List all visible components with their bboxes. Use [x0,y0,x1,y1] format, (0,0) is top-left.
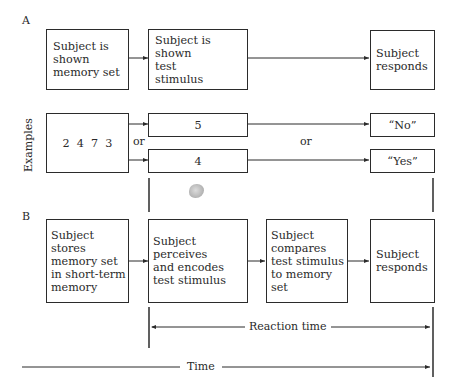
response-value: “Yes” [387,155,418,168]
box-memory-set-example: 2 4 7 3 [46,113,129,173]
box-text: Subject perceives and encodes test stimu… [149,235,247,287]
panel-b-label: B [22,210,30,223]
box-compares-stimulus: Subject compares test stimulus to memory… [266,219,348,303]
response-value: “No” [389,119,417,132]
box-shown-test-stimulus: Subject is shown test stimulus [148,29,248,90]
stimulus-value: 5 [194,119,201,132]
or-label-left: or [133,135,145,148]
box-stimulus-4: 4 [148,149,248,173]
box-subject-responds-b: Subject responds [370,219,435,303]
box-text: Subject responds [371,47,428,73]
box-text: Subject is shown memory set [47,40,120,79]
box-shown-memory-set: Subject is shown memory set [46,29,129,90]
box-subject-responds-a: Subject responds [370,30,435,90]
box-stimulus-5: 5 [148,113,248,137]
memory-set-digits: 2 4 7 3 [63,137,113,150]
box-response-yes: “Yes” [370,149,435,173]
box-text: Subject stores memory set in short-term … [47,229,128,294]
box-text: Subject compares test stimulus to memory… [267,229,347,294]
box-text: Subject is shown test stimulus [149,34,247,86]
box-text: Subject responds [371,248,428,274]
stimulus-value: 4 [194,155,201,168]
box-response-no: “No” [370,113,435,137]
or-label-right: or [300,135,312,148]
examples-label: Examples [22,118,35,172]
panel-a-label: A [22,14,30,27]
time-label: Time [180,360,222,373]
box-stores-memory-set: Subject stores memory set in short-term … [46,219,129,303]
reaction-time-label: Reaction time [245,320,331,333]
box-perceives-encodes: Subject perceives and encodes test stimu… [148,219,248,303]
